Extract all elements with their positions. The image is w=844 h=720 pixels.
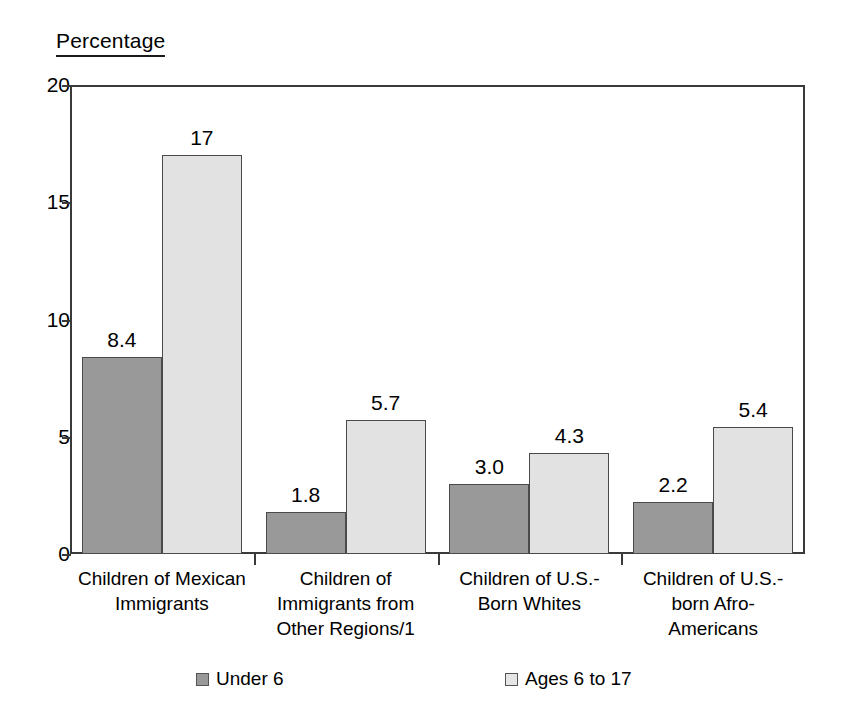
bars-layer: 8.4171.85.73.04.32.25.4 — [70, 85, 805, 554]
x-axis-category-tick — [254, 554, 256, 565]
chart-axis-title: Percentage — [56, 28, 165, 57]
legend-swatch-under-6-icon — [196, 673, 209, 686]
bar-value-label: 17 — [162, 127, 242, 148]
x-axis-category-label: Children of Immigrants from Other Region… — [254, 566, 438, 641]
bar-value-label: 3.0 — [449, 456, 529, 477]
bar — [529, 453, 609, 554]
legend-label-ages-6-to-17: Ages 6 to 17 — [525, 668, 632, 690]
legend-swatch-ages-6-to-17-icon — [505, 673, 518, 686]
legend-item-under-6[interactable]: Under 6 — [196, 668, 284, 690]
bar — [449, 484, 529, 554]
bar — [82, 357, 162, 554]
bar-value-label: 5.7 — [346, 392, 426, 413]
bar-value-label: 5.4 — [713, 399, 793, 420]
x-axis-category-label: Children of U.S.- Born Whites — [438, 566, 622, 616]
bar — [266, 512, 346, 554]
y-axis: 05101520 — [0, 85, 70, 554]
x-axis-category-label: Children of U.S.- born Afro- Americans — [621, 566, 805, 641]
legend-label-under-6: Under 6 — [216, 668, 284, 690]
legend-item-ages-6-to-17[interactable]: Ages 6 to 17 — [505, 668, 632, 690]
bar-value-label: 8.4 — [82, 329, 162, 350]
bar — [162, 155, 242, 554]
bar-chart: Percentage 05101520 8.4171.85.73.04.32.2… — [0, 0, 844, 720]
x-axis-category-label: Children of Mexican Immigrants — [70, 566, 254, 616]
bar — [633, 502, 713, 554]
x-axis-category-tick — [438, 554, 440, 565]
chart-legend: Under 6 Ages 6 to 17 — [70, 668, 805, 698]
x-axis-category-tick — [621, 554, 623, 565]
y-axis-tick-mark — [62, 554, 71, 556]
bar-value-label: 1.8 — [266, 484, 346, 505]
bar — [713, 427, 793, 554]
bar-value-label: 4.3 — [529, 425, 609, 446]
bar — [346, 420, 426, 554]
bar-value-label: 2.2 — [633, 474, 713, 495]
